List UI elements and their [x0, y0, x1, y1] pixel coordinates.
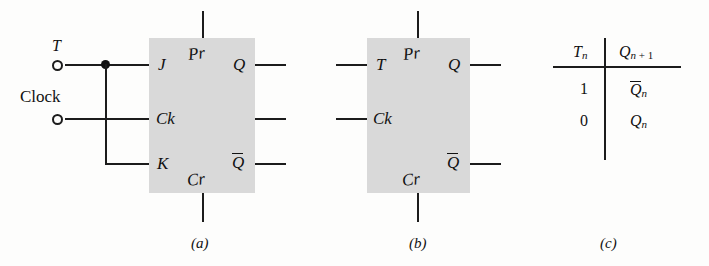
wire-t-branch-vertical	[105, 64, 107, 163]
terminal-t-a[interactable]	[52, 60, 63, 71]
wire-clock-to-ck	[65, 118, 149, 120]
pin-label-pr: Pr	[187, 44, 206, 63]
table-row-2-output-base: Q	[630, 112, 642, 129]
pin-label-qbar: Q	[232, 153, 244, 171]
clear-stub-a	[202, 193, 204, 222]
table-column-divider	[604, 38, 606, 160]
pin-label-ck-b: Ck	[373, 110, 392, 127]
table-header-qn1: Qn + 1	[619, 44, 653, 61]
pin-label-cr: Cr	[186, 170, 206, 189]
table-header-tn-base: T	[573, 43, 582, 60]
wire-right-middle-a	[255, 118, 286, 120]
caption-b: (b)	[409, 236, 427, 251]
table-row-1-output-base: Q	[630, 81, 642, 98]
pin-label-qbar-b-text: Q	[447, 153, 459, 171]
pin-label-cr-b: Cr	[401, 170, 421, 189]
preset-stub-a	[202, 11, 204, 38]
signal-label-clock: Clock	[20, 88, 61, 105]
wire-ck-in-b	[336, 118, 367, 120]
preset-stub-b	[417, 11, 419, 38]
table-header-qn1-base: Q	[619, 43, 631, 60]
table-row-1-input: 1	[580, 81, 588, 97]
pin-label-q: Q	[233, 56, 245, 73]
clear-stub-b	[417, 193, 419, 222]
pin-label-t-b: T	[376, 56, 385, 73]
wire-q-out-a	[255, 64, 286, 66]
table-row-2-input: 0	[580, 113, 588, 129]
caption-a: (a)	[191, 236, 209, 251]
pin-label-j: J	[158, 56, 166, 73]
wire-q-out-b	[470, 64, 501, 66]
wire-qbar-out-a	[255, 163, 286, 165]
table-header-tn: Tn	[573, 44, 587, 61]
table-header-rule	[553, 66, 681, 68]
wire-t-in-b	[336, 64, 367, 66]
pin-label-q-b: Q	[448, 56, 460, 73]
table-header-tn-sub: n	[582, 49, 588, 61]
table-row-2-output-sub: n	[642, 118, 648, 130]
pin-label-qbar-b: Q	[447, 153, 459, 171]
wire-qbar-out-b	[470, 163, 501, 165]
caption-c: (c)	[600, 236, 617, 251]
signal-label-t: T	[52, 38, 61, 54]
table-row-1-output: Qn	[630, 81, 647, 99]
table-row-2-output: Qn	[630, 113, 647, 130]
table-header-qn1-extra: + 1	[636, 49, 653, 61]
pin-label-pr-b: Pr	[402, 44, 421, 63]
table-row-1-output-sub: n	[642, 87, 648, 99]
figure-t-flip-flop: J Ck K Pr Cr Q Q T Clock (a) T Ck Pr Cr …	[0, 0, 709, 266]
pin-label-qbar-text: Q	[232, 153, 244, 171]
pin-label-k: K	[157, 155, 168, 172]
terminal-clock-a[interactable]	[52, 114, 63, 125]
wire-t-branch-to-k	[105, 163, 149, 165]
pin-label-ck: Ck	[156, 110, 175, 127]
